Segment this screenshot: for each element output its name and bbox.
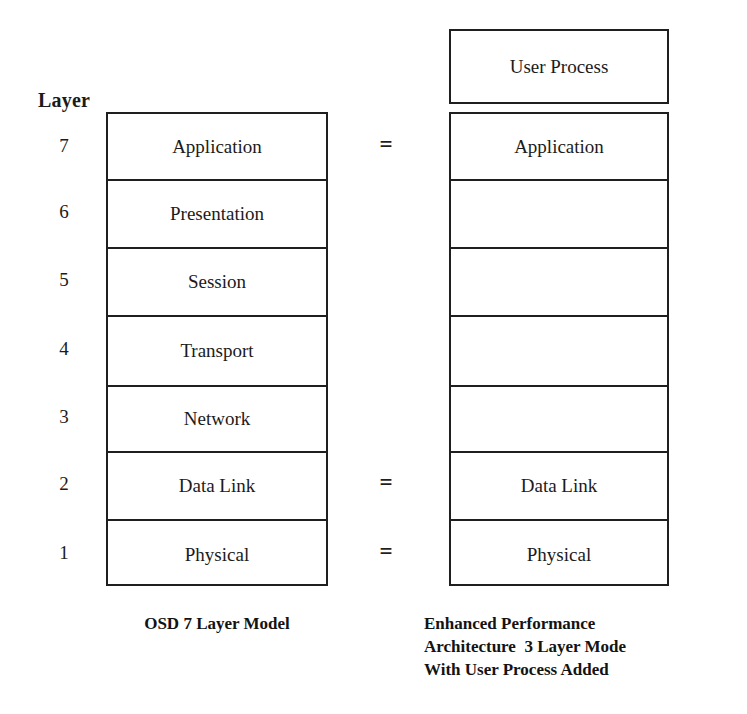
epa-caption-line-3: With User Process Added	[424, 658, 724, 681]
epa-three-layer-stack: ApplicationData LinkPhysical	[449, 112, 669, 586]
osd-layer-6-label: Presentation	[170, 203, 264, 225]
epa-caption-line-1: Enhanced Performance	[424, 612, 724, 635]
osd-layer-6: Presentation	[108, 179, 326, 247]
epa-layer-1: Physical	[451, 519, 667, 588]
epa-layer-2-label: Data Link	[521, 475, 598, 497]
epa-caption-line-2: Architecture 3 Layer Mode	[424, 635, 724, 658]
osd-layer-7: Application	[108, 114, 326, 179]
osd-layer-3-label: Network	[184, 408, 250, 430]
user-process-label: User Process	[451, 31, 667, 102]
layer-number-5: 5	[28, 270, 100, 289]
osd-layer-3: Network	[108, 385, 326, 451]
equivalence-sign-layer-7: =	[366, 133, 406, 156]
osd-stack-caption: OSD 7 Layer Model	[106, 612, 328, 635]
osd-layer-5: Session	[108, 247, 326, 315]
osd-layer-5-label: Session	[188, 271, 246, 293]
osd-layer-2-label: Data Link	[179, 475, 256, 497]
osd-layer-4-label: Transport	[180, 340, 253, 362]
epa-layer-7-label: Application	[514, 136, 604, 158]
equivalence-sign-layer-1: =	[366, 540, 406, 563]
layer-number-3: 3	[28, 407, 100, 426]
layer-axis-heading: Layer	[28, 90, 100, 110]
osd-seven-layer-stack: ApplicationPresentationSessionTransportN…	[106, 112, 328, 586]
layer-number-2: 2	[28, 474, 100, 493]
epa-stack-caption: Enhanced PerformanceArchitecture 3 Layer…	[424, 612, 724, 681]
epa-layer-6	[451, 179, 667, 247]
epa-layer-7: Application	[451, 114, 667, 179]
layer-number-7: 7	[28, 136, 100, 155]
layer-index-column: Layer 7654321	[28, 90, 100, 114]
user-process-box: User Process	[449, 29, 669, 104]
osd-layer-1-label: Physical	[185, 544, 249, 566]
osi-vs-epa-layer-diagram: Layer 7654321 ApplicationPresentationSes…	[0, 0, 747, 714]
epa-layer-5	[451, 247, 667, 315]
osd-layer-7-label: Application	[172, 136, 262, 158]
layer-number-4: 4	[28, 339, 100, 358]
osd-layer-1: Physical	[108, 519, 326, 588]
epa-layer-1-label: Physical	[527, 544, 591, 566]
epa-layer-4	[451, 315, 667, 385]
equivalence-sign-layer-2: =	[366, 471, 406, 494]
osd-layer-2: Data Link	[108, 451, 326, 519]
epa-layer-2: Data Link	[451, 451, 667, 519]
layer-number-6: 6	[28, 202, 100, 221]
osd-layer-4: Transport	[108, 315, 326, 385]
layer-number-1: 1	[28, 543, 100, 562]
epa-layer-3	[451, 385, 667, 451]
